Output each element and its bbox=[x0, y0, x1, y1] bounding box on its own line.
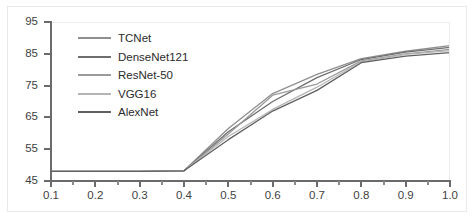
x-axis-tick bbox=[183, 181, 185, 187]
x-axis-minor-tick bbox=[427, 181, 429, 185]
x-axis-minor-tick bbox=[117, 181, 119, 185]
x-axis-tick-label: 1.0 bbox=[430, 190, 470, 201]
x-axis-tick bbox=[272, 181, 274, 187]
y-axis-tick-label: 65 bbox=[0, 111, 38, 122]
y-axis-tick-label: 95 bbox=[0, 16, 38, 27]
x-axis-tick bbox=[50, 181, 52, 187]
legend-line-swatch-icon bbox=[78, 56, 111, 58]
y-axis-tick bbox=[44, 53, 51, 55]
y-axis-tick bbox=[44, 116, 51, 118]
x-axis-tick-label: 0.2 bbox=[75, 190, 115, 201]
chart-figure: 455565758595 0.10.20.30.40.50.60.70.80.9… bbox=[0, 0, 476, 222]
x-axis-tick-label: 0.9 bbox=[386, 190, 426, 201]
x-axis-tick bbox=[94, 181, 96, 187]
legend-line-swatch-icon bbox=[78, 111, 111, 113]
x-axis-tick-label: 0.6 bbox=[253, 190, 293, 201]
x-axis-tick bbox=[449, 181, 451, 187]
legend-line-swatch-icon bbox=[78, 74, 111, 76]
x-axis-tick-label: 0.4 bbox=[164, 190, 204, 201]
x-axis-minor-tick bbox=[338, 181, 340, 185]
x-axis-tick bbox=[405, 181, 407, 187]
x-axis-minor-tick bbox=[72, 181, 74, 185]
legend-line-swatch-icon bbox=[78, 93, 111, 95]
y-axis-tick-label: 75 bbox=[0, 80, 38, 91]
x-axis-minor-tick bbox=[294, 181, 296, 185]
legend-item-resnet-50[interactable]: ResNet-50 bbox=[78, 66, 188, 85]
x-axis-tick-label: 0.7 bbox=[297, 190, 337, 201]
y-axis-tick bbox=[44, 148, 51, 150]
legend-item-alexnet[interactable]: AlexNet bbox=[78, 103, 188, 122]
x-axis-tick bbox=[139, 181, 141, 187]
x-axis-minor-tick bbox=[250, 181, 252, 185]
x-axis-minor-tick bbox=[161, 181, 163, 185]
x-axis-tick-label: 0.3 bbox=[120, 190, 160, 201]
x-axis-minor-tick bbox=[205, 181, 207, 185]
y-axis-tick-label: 85 bbox=[0, 48, 38, 59]
legend-item-label: AlexNet bbox=[118, 106, 158, 118]
legend-item-densenet121[interactable]: DenseNet121 bbox=[78, 48, 188, 67]
legend-item-vgg16[interactable]: VGG16 bbox=[78, 85, 188, 104]
legend-line-swatch-icon bbox=[78, 37, 111, 39]
y-axis-tick-label: 55 bbox=[0, 143, 38, 154]
legend-item-label: VGG16 bbox=[118, 88, 156, 100]
legend-item-label: DenseNet121 bbox=[118, 51, 188, 63]
x-axis-tick-label: 0.1 bbox=[31, 190, 71, 201]
y-axis-tick bbox=[44, 85, 51, 87]
legend-item-label: TCNet bbox=[118, 32, 151, 44]
x-axis-tick bbox=[316, 181, 318, 187]
x-axis-tick bbox=[360, 181, 362, 187]
legend-item-tcnet[interactable]: TCNet bbox=[78, 29, 188, 48]
x-axis-tick-label: 0.5 bbox=[208, 190, 248, 201]
x-axis-tick bbox=[227, 181, 229, 187]
chart-legend: TCNetDenseNet121ResNet-50VGG16AlexNet bbox=[78, 29, 188, 122]
x-axis-tick-label: 0.8 bbox=[341, 190, 381, 201]
y-axis-line bbox=[50, 21, 52, 182]
legend-item-label: ResNet-50 bbox=[118, 69, 173, 81]
x-axis-minor-tick bbox=[383, 181, 385, 185]
y-axis-tick-label: 45 bbox=[0, 175, 38, 186]
y-axis-tick bbox=[44, 21, 51, 23]
